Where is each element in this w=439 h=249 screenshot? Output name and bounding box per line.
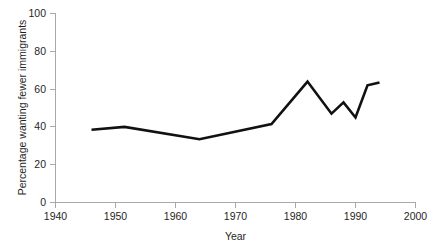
- x-tick-label: 1940: [44, 210, 68, 222]
- x-tick-label: 2000: [404, 210, 428, 222]
- y-tick-label: 40: [34, 120, 46, 132]
- chart-canvas: 0 20 40 60 80 100 1940 1950 1960 1970 19…: [0, 0, 439, 249]
- y-tick-label: 100: [28, 7, 46, 19]
- y-tick-label: 0: [40, 196, 46, 208]
- y-tick-label: 80: [34, 45, 46, 57]
- x-tick-label: 1970: [224, 210, 248, 222]
- x-tick-label: 1990: [344, 210, 368, 222]
- y-axis-title: Percentage wanting fewer immigrants: [16, 20, 28, 196]
- x-tick-label: 1960: [164, 210, 188, 222]
- y-tick-label: 20: [34, 158, 46, 170]
- line-chart: 0 20 40 60 80 100 1940 1950 1960 1970 19…: [0, 0, 439, 249]
- x-axis-ticks: [56, 203, 416, 209]
- x-tick-label: 1980: [284, 210, 308, 222]
- data-series-line: [92, 82, 380, 140]
- x-tick-label: 1950: [104, 210, 128, 222]
- y-tick-label: 60: [34, 83, 46, 95]
- x-axis-title: Year: [225, 230, 247, 242]
- x-axis-tick-labels: 1940 1950 1960 1970 1980 1990 2000: [44, 210, 428, 222]
- y-axis-ticks: [50, 14, 56, 203]
- y-axis-tick-labels: 0 20 40 60 80 100: [28, 7, 46, 208]
